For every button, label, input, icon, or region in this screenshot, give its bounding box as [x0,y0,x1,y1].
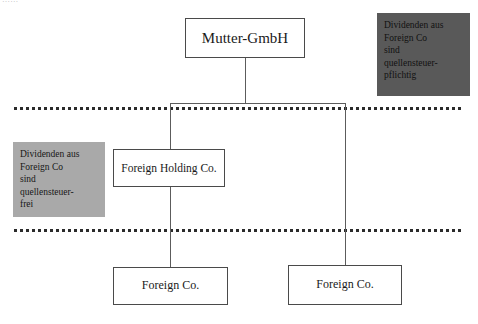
entity-box-foreign-co-left: Foreign Co. [113,267,228,305]
connector-bus-to-foreign-right [345,103,346,266]
org-structure-diagram: …… Mutter-GmbH Foreign Holding Co. Forei… [0,0,478,324]
entity-label-foreign-holding-co: Foreign Holding Co. [121,162,217,175]
note-withholding-tax-liable: Dividenden aus Foreign Co sind quellenst… [377,13,470,96]
entity-label-foreign-co-right: Foreign Co. [316,278,373,291]
cut-off-text-fragment: …… [2,0,19,4]
entity-label-mutter-gmbh: Mutter-GmbH [202,30,288,47]
note-withholding-tax-exempt: Dividenden aus Foreign Co sind quellenst… [13,142,105,217]
jurisdiction-boundary-line-top [14,107,462,110]
connector-holding-to-foreign-left [170,186,171,268]
entity-box-foreign-co-right: Foreign Co. [288,265,402,305]
entity-label-foreign-co-left: Foreign Co. [142,279,199,292]
connector-horizontal-bus [170,103,346,104]
connector-mutter-to-bus [245,58,246,104]
entity-box-mutter-gmbh: Mutter-GmbH [185,18,305,58]
jurisdiction-boundary-line-bottom [14,229,462,232]
connector-bus-to-holding [170,103,171,150]
entity-box-foreign-holding-co: Foreign Holding Co. [113,149,225,187]
